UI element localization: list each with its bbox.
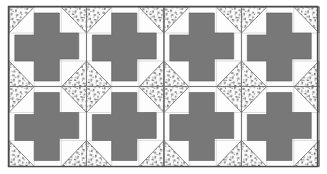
quilt-block [9, 87, 87, 167]
quilt-block [87, 87, 165, 167]
quilt-block [242, 7, 320, 87]
quilt-block [87, 7, 165, 87]
quilt-diagram-svg [0, 0, 327, 174]
quilt-block [9, 7, 87, 87]
quilt-block [164, 7, 242, 87]
quilt-layout-figure [0, 0, 327, 174]
quilt-block [164, 87, 242, 167]
quilt-block [242, 87, 320, 167]
